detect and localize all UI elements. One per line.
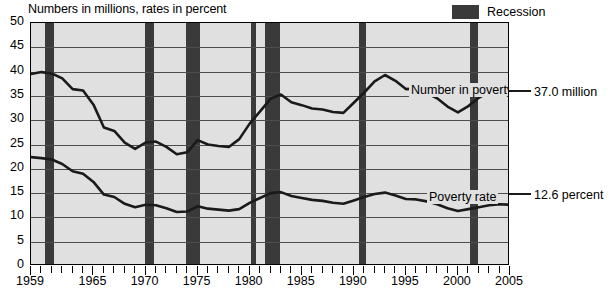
x-axis-tick [103,266,104,273]
plot-area: Number in poverty Poverty rate [30,22,509,265]
x-axis-tick [447,266,448,273]
x-axis-tick [124,266,125,273]
x-axis-tick [363,266,364,273]
plot-inner: Number in poverty Poverty rate [31,23,508,264]
x-axis-tick [290,266,291,273]
x-axis-tick-label: 1990 [330,274,376,288]
legend-label: Recession [487,5,545,19]
x-axis-tick [40,266,41,273]
rate-leader-line [509,193,531,195]
x-axis-tick [82,266,83,273]
x-axis: 1959196519701975198019851990199520002005 [0,274,611,290]
x-axis-tick-label: 1985 [278,274,324,288]
y-axis-tick-label: 25 [0,136,24,150]
recession-swatch-icon [452,5,479,19]
x-axis-tick [332,266,333,273]
x-axis-tick [311,266,312,273]
legend: Recession [452,5,545,19]
y-axis-tick-label: 45 [0,38,24,52]
x-axis-tick [155,266,156,273]
x-axis-tick-label: 1975 [174,274,220,288]
series-lines [31,23,508,264]
x-axis-tick [228,266,229,273]
x-axis-tick [426,266,427,273]
poverty-chart-figure: Numbers in millions, rates in percent Re… [0,0,611,290]
number-in-poverty-label: Number in poverty [409,83,508,97]
poverty-rate-end-value: 12.6 percent [534,188,604,202]
x-axis-tick [72,266,73,273]
x-axis-tick [322,266,323,273]
x-axis-tick [478,266,479,273]
x-axis-tick [217,266,218,273]
x-axis-tick [134,266,135,273]
x-axis-tick [499,266,500,273]
y-axis-tick-label: 35 [0,87,24,101]
y-axis-tick-label: 40 [0,63,24,77]
x-axis-tick [259,266,260,273]
units-caption: Numbers in millions, rates in percent [28,2,226,16]
y-axis-tick-label: 30 [0,111,24,125]
x-axis-tick [342,266,343,273]
x-axis-tick [280,266,281,273]
x-axis-tick [113,266,114,273]
y-axis-tick-label: 15 [0,184,24,198]
x-axis-tick-label: 2000 [434,274,480,288]
y-axis: 50454035302520151050 [0,0,28,290]
x-axis-tick [384,266,385,273]
x-axis-tick-label: 1980 [226,274,272,288]
x-axis-tick [394,266,395,273]
y-axis-tick-label: 10 [0,208,24,222]
x-axis-tick-label: 2005 [486,274,532,288]
x-axis-tick-label: 1959 [7,274,53,288]
x-axis-tick [51,266,52,273]
x-axis-tick [165,266,166,273]
x-axis-tick [436,266,437,273]
x-axis-tick-label: 1965 [69,274,115,288]
poverty-rate-label: Poverty rate [427,190,498,204]
x-axis-tick [61,266,62,273]
x-axis-tick [488,266,489,273]
x-axis-tick [207,266,208,273]
x-axis-tick [374,266,375,273]
x-axis-tick [467,266,468,273]
x-axis-tick [270,266,271,273]
y-axis-tick-label: 5 [0,233,24,247]
x-axis-tick-label: 1970 [122,274,168,288]
x-axis-tick [186,266,187,273]
x-axis-tick [176,266,177,273]
y-axis-tick-label: 50 [0,14,24,28]
x-axis-tick [238,266,239,273]
number-leader-line [509,90,531,92]
x-axis-tick [415,266,416,273]
x-axis-tick-label: 1995 [382,274,428,288]
number-in-poverty-end-value: 37.0 million [534,85,597,99]
y-axis-tick-label: 0 [0,257,24,271]
y-axis-tick-label: 20 [0,160,24,174]
